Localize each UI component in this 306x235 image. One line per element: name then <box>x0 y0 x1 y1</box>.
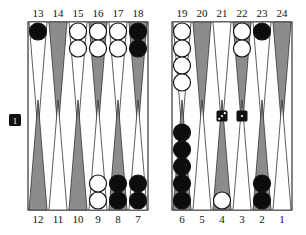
white-checker[interactable] <box>174 74 191 91</box>
white-checker[interactable] <box>90 175 107 192</box>
black-checker[interactable] <box>254 23 271 40</box>
white-checker[interactable] <box>90 23 107 40</box>
point-label-14: 14 <box>53 7 65 19</box>
black-checker[interactable] <box>110 175 127 192</box>
point-label-21: 21 <box>217 7 228 19</box>
point-label-23: 23 <box>257 7 269 19</box>
point-label-7: 7 <box>135 213 141 225</box>
die-pip <box>241 115 243 117</box>
white-checker[interactable] <box>234 23 251 40</box>
black-checker[interactable] <box>130 192 147 209</box>
black-checker[interactable] <box>174 192 191 209</box>
white-checker[interactable] <box>234 40 251 57</box>
white-checker[interactable] <box>174 40 191 57</box>
white-checker[interactable] <box>90 192 107 209</box>
white-checker[interactable] <box>90 40 107 57</box>
white-checker[interactable] <box>110 23 127 40</box>
black-checker[interactable] <box>174 175 191 192</box>
point-label-2: 2 <box>259 213 265 225</box>
point-label-19: 19 <box>177 7 189 19</box>
black-checker[interactable] <box>174 141 191 158</box>
black-checker[interactable] <box>130 23 147 40</box>
white-checker[interactable] <box>214 192 231 209</box>
black-checker[interactable] <box>30 23 47 40</box>
point-label-3: 3 <box>239 213 245 225</box>
white-checker[interactable] <box>174 23 191 40</box>
white-checker[interactable] <box>70 23 87 40</box>
point-label-9: 9 <box>95 213 101 225</box>
point-label-17: 17 <box>113 7 125 19</box>
point-label-10: 10 <box>73 213 85 225</box>
point-label-12: 12 <box>33 213 44 225</box>
point-label-1: 1 <box>279 213 285 225</box>
black-checker[interactable] <box>174 124 191 141</box>
die-pip <box>221 115 223 117</box>
white-checker[interactable] <box>110 40 127 57</box>
white-checker[interactable] <box>174 57 191 74</box>
point-label-8: 8 <box>115 213 121 225</box>
point-label-13: 13 <box>33 7 45 19</box>
point-label-20: 20 <box>197 7 209 19</box>
die-1[interactable] <box>217 111 228 122</box>
point-label-15: 15 <box>73 7 85 19</box>
die-2[interactable] <box>237 111 248 122</box>
point-label-4: 4 <box>219 213 225 225</box>
backgammon-board: 131415161718121110987192021222324654321 … <box>0 0 306 235</box>
point-label-24: 24 <box>277 7 289 19</box>
point-label-18: 18 <box>133 7 145 19</box>
doubling-cube-value: 1 <box>13 116 18 126</box>
point-label-16: 16 <box>93 7 105 19</box>
black-checker[interactable] <box>130 175 147 192</box>
point-label-11: 11 <box>53 213 64 225</box>
black-checker[interactable] <box>110 192 127 209</box>
point-label-5: 5 <box>199 213 205 225</box>
point-label-6: 6 <box>179 213 185 225</box>
die-pip <box>224 112 226 114</box>
black-checker[interactable] <box>130 40 147 57</box>
die-pip <box>218 118 220 120</box>
black-checker[interactable] <box>254 192 271 209</box>
doubling-cube[interactable]: 1 <box>9 114 21 126</box>
black-checker[interactable] <box>254 175 271 192</box>
black-checker[interactable] <box>174 158 191 175</box>
white-checker[interactable] <box>70 40 87 57</box>
point-label-22: 22 <box>237 7 248 19</box>
